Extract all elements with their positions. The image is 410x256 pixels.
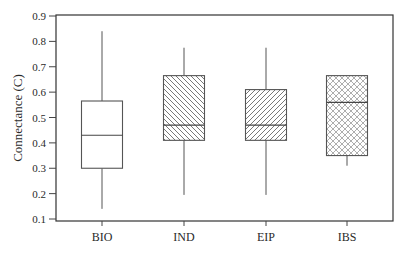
x-axis: BIOINDEIPIBS — [92, 221, 357, 244]
box-ind — [164, 48, 205, 195]
iqr-box — [246, 90, 287, 141]
y-tick-label: 0.8 — [32, 35, 46, 47]
y-tick-label: 0.6 — [32, 86, 46, 98]
boxes — [82, 31, 368, 209]
iqr-box — [82, 101, 123, 168]
x-tick-label-bio: BIO — [92, 230, 113, 244]
y-tick-label: 0.9 — [32, 10, 46, 22]
iqr-box — [327, 76, 368, 156]
iqr-box — [164, 76, 205, 141]
y-axis: 0.10.20.30.40.50.60.70.80.9 — [32, 10, 56, 225]
x-tick-label-ibs: IBS — [338, 230, 357, 244]
box-bio — [82, 31, 123, 209]
y-axis-label: Connectance (C) — [10, 74, 25, 162]
y-tick-label: 0.4 — [32, 137, 46, 149]
boxplot-chart: 0.10.20.30.40.50.60.70.80.9 BIOINDEIPIBS… — [0, 0, 410, 256]
x-tick-label-eip: EIP — [257, 230, 275, 244]
y-tick-label: 0.7 — [32, 61, 46, 73]
y-tick-label: 0.3 — [32, 162, 46, 174]
y-tick-label: 0.5 — [32, 112, 46, 124]
box-ibs — [327, 76, 368, 166]
y-tick-label: 0.1 — [32, 213, 46, 225]
y-tick-label: 0.2 — [32, 188, 46, 200]
x-tick-label-ind: IND — [173, 230, 195, 244]
box-eip — [246, 48, 287, 195]
